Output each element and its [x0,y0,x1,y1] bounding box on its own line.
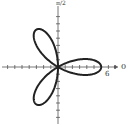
axis-label-0: 0 [121,63,126,71]
polar-plot [0,0,129,127]
tick-label-6: 6 [105,71,109,78]
axis-label-pi-over-2: π/2 [56,0,66,6]
